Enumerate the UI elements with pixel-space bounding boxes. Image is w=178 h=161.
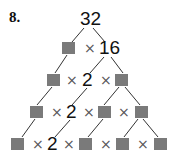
factor-number: 16 [99, 38, 120, 57]
blank-factor-box[interactable] [79, 138, 92, 150]
times-sign: × [118, 105, 130, 119]
times-sign: × [83, 105, 95, 119]
blank-factor-box[interactable] [115, 74, 128, 86]
blank-factor-box[interactable] [47, 74, 60, 86]
blank-factor-box[interactable] [135, 106, 148, 118]
times-sign: × [100, 73, 112, 87]
times-sign: × [84, 41, 96, 55]
blank-factor-box[interactable] [154, 138, 167, 150]
times-sign: × [32, 137, 44, 151]
times-sign: × [66, 73, 78, 87]
blank-factor-box[interactable] [11, 138, 24, 150]
blank-factor-box[interactable] [30, 106, 43, 118]
root-number: 32 [80, 9, 101, 28]
times-sign: × [51, 105, 63, 119]
times-sign: × [137, 137, 149, 151]
factor-number: 2 [47, 134, 58, 153]
blank-factor-box[interactable] [116, 138, 129, 150]
times-sign: × [100, 137, 112, 151]
factor-number: 2 [82, 70, 93, 89]
blank-factor-box[interactable] [98, 106, 111, 118]
blank-factor-box[interactable] [62, 42, 75, 54]
factor-number: 2 [66, 102, 77, 121]
times-sign: × [63, 137, 75, 151]
